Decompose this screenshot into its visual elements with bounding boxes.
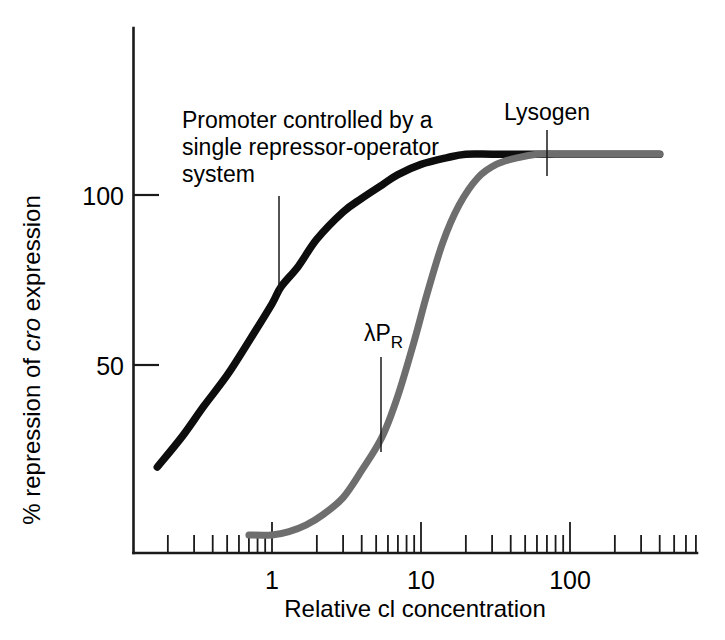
annotation-promoter-line-1: Promoter controlled by a: [182, 107, 433, 133]
x-tick-label-100: 100: [549, 566, 591, 594]
data-curves: [157, 154, 659, 535]
annotation-lambda-pr-label: λPR: [364, 320, 403, 352]
x-axis-title: Relative cl concentration: [284, 595, 545, 622]
curve-single-repressor-operator: [157, 154, 659, 467]
annotation-lysogen: Lysogen: [504, 99, 590, 176]
annotation-lambda-pr-subscript: R: [391, 333, 403, 352]
y-axis-title: % repression of cro expression: [18, 195, 45, 525]
x-tick-labels: 110100: [265, 566, 591, 594]
y-axis-title-suffix: expression: [18, 195, 45, 318]
annotation-lambda-pr-main: λP: [364, 320, 391, 346]
chart-svg: 100 50 110100 Promoter controlled by a s…: [0, 0, 725, 640]
annotation-promoter-line-2: single repressor-operator: [182, 134, 439, 160]
y-axis-title-prefix: % repression of: [18, 351, 45, 524]
y-tick-labels: 100 50: [82, 182, 124, 380]
y-axis-title-gene: cro: [18, 318, 45, 351]
y-tick-label-100: 100: [82, 182, 124, 210]
x-tick-label-10: 10: [407, 566, 435, 594]
figure-container: 100 50 110100 Promoter controlled by a s…: [0, 0, 725, 640]
y-tick-label-50: 50: [96, 352, 124, 380]
x-tick-label-1: 1: [265, 566, 279, 594]
curve-lambda-pr: [249, 154, 660, 535]
annotation-promoter: Promoter controlled by a single represso…: [182, 107, 439, 294]
y-tick-marks: [133, 195, 159, 365]
annotation-promoter-line-3: system: [182, 161, 255, 187]
annotation-lysogen-label: Lysogen: [504, 99, 590, 125]
